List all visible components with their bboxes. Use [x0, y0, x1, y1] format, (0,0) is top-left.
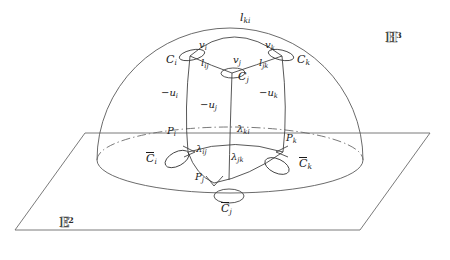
label-minus-u-i: −ui: [161, 88, 178, 100]
label-P-i: Pi: [167, 126, 176, 138]
label-l-jk: ljk: [259, 58, 268, 70]
label-lambda-ij: λij: [196, 144, 207, 156]
circle-cross-sections-lower: [162, 147, 292, 203]
blackboard-E-glyph: EE: [59, 217, 68, 229]
label-base-plane-E2: EE2: [59, 217, 74, 229]
label-lambda-jk: λjk: [231, 152, 244, 164]
label-ambient-space-H3: HH3: [385, 32, 402, 44]
label-l-ij: lij: [201, 58, 208, 70]
label-Cbar-k: Ck: [299, 157, 312, 171]
label-v-j: vj: [233, 55, 241, 67]
label-minus-u-k: −uk: [259, 88, 278, 100]
figure-canvas: lki Ci vi vj vk Ck lij ljk Cj −ui −uj −u…: [0, 0, 450, 260]
dome-equator-front: [97, 160, 363, 193]
label-l-ki: lki: [240, 12, 250, 25]
label-C-k: Ck: [297, 54, 310, 67]
label-Cbar-j: Cj: [221, 202, 232, 216]
blackboard-H-glyph: HH: [385, 32, 396, 44]
label-P-k: Pk: [286, 133, 297, 145]
label-P-j: Pj: [195, 172, 204, 184]
label-C-i: Ci: [166, 54, 177, 67]
label-C-j: Cj: [238, 71, 249, 84]
label-v-i: vi: [199, 40, 207, 52]
label-v-k: vk: [265, 40, 275, 52]
label-Cbar-i: Ci: [146, 152, 157, 166]
label-lambda-ki: λki: [237, 124, 250, 136]
label-minus-u-j: −uj: [200, 100, 217, 112]
